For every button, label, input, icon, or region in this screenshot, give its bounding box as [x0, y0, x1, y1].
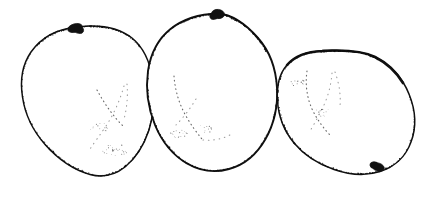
- stipple-dot: [408, 92, 409, 93]
- stipple-speckle: [301, 82, 302, 83]
- stipple-dot: [414, 119, 415, 120]
- stipple-dot: [147, 85, 148, 86]
- stipple-dot: [302, 151, 303, 152]
- stipple-dot: [195, 17, 196, 18]
- stipple-dot: [34, 128, 35, 129]
- stipple-speckle: [323, 112, 324, 113]
- stipple-dot: [277, 94, 278, 95]
- stipple-dot: [31, 123, 32, 124]
- stipple-speckle: [93, 128, 94, 129]
- stipple-dot: [43, 40, 44, 41]
- stipple-dot: [197, 16, 198, 17]
- stipple-dot: [118, 31, 119, 32]
- stipple-dot: [74, 167, 75, 168]
- stipple-dot: [158, 42, 159, 43]
- stipple-dot: [89, 26, 90, 27]
- stipple-dot: [304, 153, 305, 154]
- stipple-dot: [51, 150, 52, 151]
- stipple-dot: [21, 92, 22, 93]
- stipple-dot: [286, 130, 288, 132]
- stipple-dot: [147, 132, 148, 133]
- stipple-dot: [400, 78, 401, 79]
- stipple-dot: [207, 169, 208, 170]
- stipple-speckle: [294, 80, 295, 81]
- stipple-dot: [288, 62, 289, 63]
- stipple-dot: [163, 139, 164, 140]
- stipple-dot: [251, 155, 252, 156]
- stipple-dot: [362, 174, 363, 175]
- stipple-dot: [229, 17, 230, 18]
- stipple-dot: [162, 138, 163, 139]
- stipple-speckle: [186, 132, 187, 133]
- stipple-dot: [136, 154, 137, 155]
- stipple-dot: [281, 117, 282, 118]
- stipple-speckle: [208, 129, 209, 130]
- stipple-dot: [279, 81, 280, 82]
- stipple-dot: [111, 173, 112, 174]
- stipple-dot: [412, 133, 413, 134]
- stipple-dot: [278, 83, 279, 84]
- stipple-dot: [259, 39, 261, 41]
- stipple-dot: [26, 112, 27, 113]
- stipple-dot: [263, 140, 264, 141]
- stipple-speckle: [105, 130, 106, 131]
- stipple-dot: [290, 61, 292, 63]
- stipple-dot: [306, 154, 307, 155]
- stipple-dot: [275, 111, 276, 112]
- stipple-dot: [244, 26, 246, 28]
- stipple-speckle: [204, 127, 205, 128]
- stipple-speckle: [303, 80, 304, 81]
- stipple-dot: [151, 113, 152, 114]
- stipple-dot: [413, 126, 414, 127]
- stipple-speckle: [184, 136, 185, 137]
- stipple-speckle: [178, 137, 179, 138]
- stipple-dot: [142, 144, 143, 145]
- stipple-dot: [363, 53, 364, 54]
- stipple-dot: [52, 34, 53, 35]
- stipple-dot: [228, 15, 230, 17]
- stipple-dot: [206, 15, 207, 16]
- stipple-dot: [140, 146, 141, 147]
- stipple-dot: [323, 164, 324, 165]
- stipple-dot: [235, 19, 236, 20]
- stipple-dot: [280, 75, 281, 76]
- specimen-right-hilum-lobe-icon: [370, 161, 379, 168]
- stipple-dot: [332, 168, 333, 169]
- stipple-dot: [295, 58, 296, 59]
- stipple-dot: [288, 135, 289, 136]
- stipple-dot: [189, 18, 190, 19]
- stipple-speckle: [112, 147, 113, 148]
- stipple-dot: [119, 169, 120, 170]
- stipple-dot: [188, 19, 190, 21]
- stipple-dot: [219, 169, 220, 170]
- stipple-speckle: [320, 110, 321, 111]
- seed-illustration: [0, 0, 438, 199]
- stipple-dot: [25, 110, 27, 112]
- stipple-dot: [153, 119, 154, 120]
- stipple-dot: [230, 18, 231, 19]
- stipple-dot: [414, 116, 415, 117]
- stipple-speckle: [324, 116, 325, 117]
- stipple-dot: [387, 168, 388, 169]
- stipple-dot: [237, 20, 238, 21]
- stipple-dot: [55, 154, 56, 155]
- stipple-dot: [263, 45, 264, 46]
- stipple-dot: [23, 98, 24, 99]
- stipple-dot: [346, 172, 347, 173]
- stipple-dot: [41, 41, 42, 42]
- stipple-dot: [244, 160, 245, 161]
- stipple-speckle: [124, 154, 125, 155]
- stipple-dot: [133, 40, 134, 41]
- stipple-dot: [297, 57, 299, 59]
- stipple-dot: [412, 107, 413, 108]
- stipple-speckle: [97, 125, 98, 126]
- stipple-dot: [303, 54, 304, 55]
- stipple-dot: [21, 90, 22, 91]
- stipple-dot: [312, 158, 313, 159]
- stipple-dot: [305, 53, 306, 54]
- stipple-dot: [69, 164, 70, 165]
- stipple-dot: [365, 53, 366, 54]
- stipple-speckle: [103, 151, 104, 152]
- stipple-dot: [25, 108, 26, 109]
- stipple-dot: [66, 29, 67, 30]
